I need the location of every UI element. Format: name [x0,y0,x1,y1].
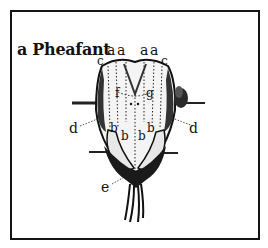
label-b: b [121,130,129,142]
label-d-left: d [69,121,78,135]
tail-feathers [125,184,143,222]
label-a: a [150,43,158,57]
label-d-right: d [189,121,198,135]
label-a: a [117,43,125,57]
label-c-left: c [97,55,104,67]
label-b: b [147,122,155,134]
label-b: b [138,130,146,142]
label-a: a [107,43,115,57]
label-c-right: c [161,55,168,67]
label-e: e [101,180,109,194]
label-g: g [146,87,154,99]
pheasant-carving-illustration [0,0,268,248]
label-f: f [115,87,119,99]
label-a: a [140,43,148,57]
label-b: b [110,122,118,134]
